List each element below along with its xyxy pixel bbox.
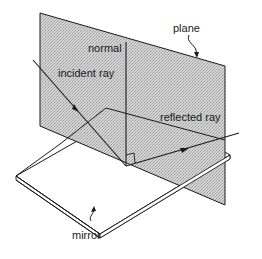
label-plane: plane xyxy=(173,22,200,34)
label-mirror: mirror xyxy=(72,229,101,241)
label-reflected-ray: reflected ray xyxy=(160,111,221,123)
reflection-diagram: plane normal incident ray reflected ray … xyxy=(0,0,262,259)
label-incident-ray: incident ray xyxy=(58,67,115,79)
label-normal: normal xyxy=(88,42,122,54)
